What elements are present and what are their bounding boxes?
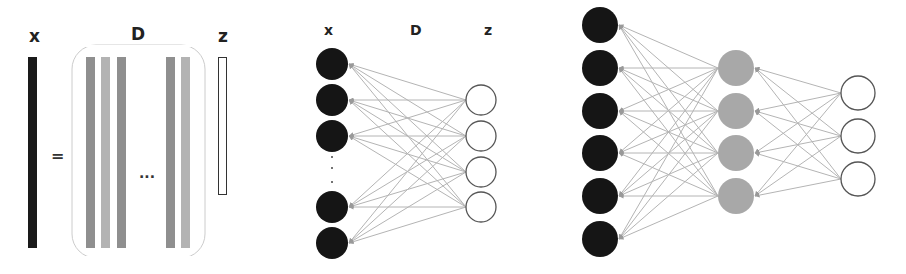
label-D-net: D bbox=[410, 22, 422, 38]
label-z-net: z bbox=[484, 22, 492, 38]
input-node-x bbox=[316, 48, 348, 80]
hidden-node bbox=[718, 178, 754, 214]
connection-edge bbox=[755, 153, 841, 179]
input-node bbox=[582, 93, 618, 129]
dictionary-atom-bar bbox=[181, 57, 190, 248]
vertical-ellipsis-dot bbox=[331, 156, 333, 158]
input-node-x bbox=[316, 191, 348, 223]
panel-network-single: x D z bbox=[316, 22, 496, 259]
hidden-node bbox=[718, 93, 754, 129]
input-node bbox=[582, 135, 618, 171]
panel-network-deep bbox=[582, 7, 875, 257]
input-node-x bbox=[316, 120, 348, 152]
label-x-net: x bbox=[324, 22, 333, 38]
dictionary-atom-bar bbox=[101, 57, 110, 248]
label-x: x bbox=[29, 26, 40, 46]
hidden-node bbox=[718, 50, 754, 86]
vertical-ellipsis-dot bbox=[331, 167, 333, 169]
code-node-z bbox=[466, 121, 496, 151]
net2-nodes bbox=[582, 7, 875, 257]
input-node-x bbox=[316, 227, 348, 259]
hidden-node bbox=[718, 135, 754, 171]
equals-sign: = bbox=[51, 146, 64, 165]
connection-edge bbox=[619, 25, 718, 153]
net1-edges bbox=[349, 64, 466, 243]
output-node bbox=[841, 119, 875, 153]
connection-edge bbox=[619, 25, 718, 68]
code-node-z bbox=[466, 85, 496, 115]
code-node-z bbox=[466, 192, 496, 222]
input-node bbox=[582, 178, 618, 214]
panel-matrix-form: x D z = ... bbox=[28, 24, 228, 259]
dictionary-atoms bbox=[86, 57, 190, 248]
sparse-coding-diagram: x D z = ... x D z bbox=[0, 0, 906, 274]
connection-edge bbox=[349, 172, 466, 207]
connection-edge bbox=[755, 68, 841, 93]
label-D: D bbox=[131, 24, 145, 44]
dictionary-atom-bar bbox=[86, 57, 95, 248]
input-node-x bbox=[316, 84, 348, 116]
vertical-ellipsis-dot bbox=[331, 181, 333, 183]
code-node-z bbox=[466, 157, 496, 187]
input-node bbox=[582, 7, 618, 43]
connection-edge bbox=[755, 68, 841, 179]
connection-edge bbox=[619, 196, 718, 239]
z-code-bar bbox=[219, 58, 227, 195]
ellipsis: ... bbox=[139, 165, 155, 181]
connection-edge bbox=[349, 207, 466, 243]
output-node bbox=[841, 162, 875, 196]
connection-edge bbox=[349, 64, 466, 172]
input-node bbox=[582, 50, 618, 86]
x-vector-bar bbox=[28, 57, 37, 248]
dictionary-atom-bar bbox=[117, 57, 126, 248]
input-node bbox=[582, 221, 618, 257]
output-node bbox=[841, 76, 875, 110]
label-z: z bbox=[218, 26, 228, 46]
dictionary-atom-bar bbox=[166, 57, 175, 248]
connection-edge bbox=[349, 64, 466, 100]
